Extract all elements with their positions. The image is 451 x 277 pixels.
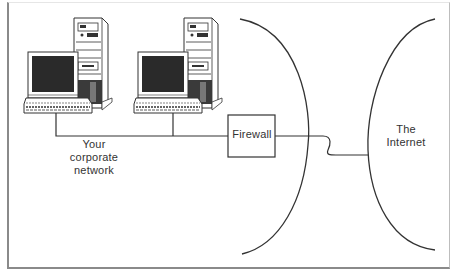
corporate-label-line-2: corporate bbox=[63, 151, 125, 164]
corporate-network-label: Your corporate network bbox=[63, 138, 125, 177]
corporate-label-line-3: network bbox=[63, 164, 125, 177]
internet-label-line-1: The bbox=[380, 123, 432, 136]
internet-connection-wire bbox=[275, 136, 368, 155]
computer-2 bbox=[134, 18, 222, 113]
desktop-computer-icon bbox=[24, 18, 112, 113]
desktop-computer-icon bbox=[134, 18, 222, 113]
corporate-label-line-1: Your bbox=[63, 138, 125, 151]
internet-label-line-2: Internet bbox=[380, 136, 432, 149]
computer-1 bbox=[24, 18, 112, 113]
firewall-label: Firewall bbox=[229, 128, 275, 141]
lan-wires bbox=[56, 113, 228, 136]
internet-label: The Internet bbox=[380, 123, 432, 149]
